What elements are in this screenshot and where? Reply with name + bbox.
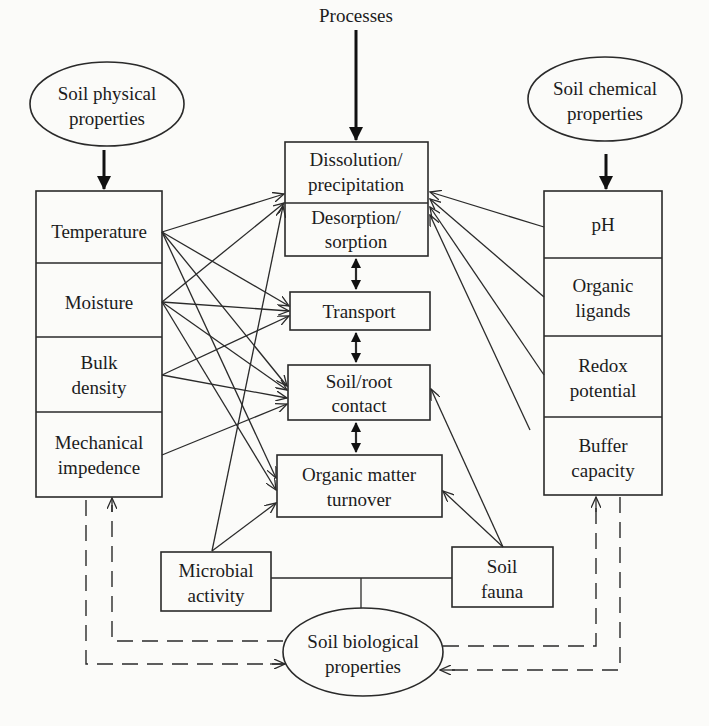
oval-soil-chemical-properties: Soil chemical properties: [528, 57, 682, 189]
cell-organic-ligands-line2: ligands: [576, 300, 631, 321]
oval-soil-physical-properties: Soil physical properties: [30, 62, 184, 189]
microbial-activity-line1: Microbial: [179, 560, 254, 581]
cell-bulk-density-line1: Bulk: [81, 352, 118, 373]
cell-bulk-density-line2: density: [72, 377, 127, 398]
microbial-activity-line2: activity: [188, 585, 245, 606]
physical-influence-arrows: [162, 194, 289, 490]
cell-moisture: Moisture: [65, 292, 134, 313]
process-dissolution-line1: Dissolution/: [310, 149, 404, 170]
chemical-properties-column: pH Organic ligands Redox potential Buffe…: [544, 191, 662, 495]
physical-properties-column: Temperature Moisture Bulk density Mechan…: [36, 191, 162, 497]
cell-temperature: Temperature: [51, 221, 147, 242]
process-transport-label: Transport: [322, 301, 396, 322]
soil-fauna-line2: fauna: [481, 581, 524, 602]
oval-soil-biological-properties: Soil biological properties: [283, 608, 443, 696]
oval-label-line2: properties: [567, 103, 643, 124]
cell-buffer-capacity-line2: capacity: [571, 460, 635, 481]
cell-buffer-capacity-line1: Buffer: [578, 435, 628, 456]
biological-connector: [271, 578, 452, 608]
cell-organic-ligands-line1: Organic: [573, 275, 634, 296]
soil-fauna-line1: Soil: [487, 556, 518, 577]
cell-mechanical-impedence-line1: Mechanical: [55, 432, 144, 453]
process-soil-root-contact: Soil/root contact: [288, 365, 430, 420]
oval-label-line2: properties: [69, 108, 145, 129]
cell-ph: pH: [591, 214, 615, 235]
processes-header: Processes: [319, 5, 393, 140]
cell-mechanical-impedence-line2: impedence: [58, 457, 140, 478]
process-desorption-line1: Desorption/: [311, 207, 401, 228]
process-soil-root-line2: contact: [332, 395, 388, 416]
oval-label-line1: Soil chemical: [553, 78, 657, 99]
soil-properties-process-diagram: Processes Soil physical properties Soil …: [0, 0, 709, 726]
chemical-influence-arrows: [430, 192, 544, 430]
process-organic-matter-turnover: Organic matter turnover: [277, 455, 442, 517]
processes-title: Processes: [319, 5, 393, 26]
cell-redox-potential-line2: potential: [570, 380, 636, 401]
oval-label-line1: Soil biological: [307, 631, 418, 652]
oval-label-line1: Soil physical: [58, 83, 157, 104]
process-organic-matter-line2: turnover: [327, 489, 392, 510]
process-dissolution-desorption: Dissolution/ precipitation Desorption/ s…: [285, 142, 428, 256]
process-transport: Transport: [290, 292, 430, 330]
soil-fauna-box: Soil fauna: [431, 389, 553, 607]
cell-redox-potential-line1: Redox: [578, 355, 628, 376]
process-soil-root-line1: Soil/root: [326, 371, 393, 392]
process-desorption-line2: sorption: [325, 231, 388, 252]
oval-label-line2: properties: [325, 656, 401, 677]
process-organic-matter-line1: Organic matter: [302, 464, 417, 485]
process-dissolution-line2: precipitation: [308, 174, 405, 195]
